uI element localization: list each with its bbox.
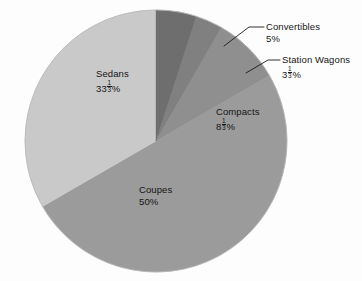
pie-label-station-wagons: Station Wagons 313% (282, 54, 350, 80)
pie-label-sedans-name: Sedans (96, 68, 129, 80)
pie-label-convertibles: Convertibles 5% (266, 21, 320, 44)
pie-slices (25, 10, 287, 272)
pie-label-compacts-value: 813% (216, 118, 260, 132)
pie-label-sedans: Sedans 3313% (96, 68, 129, 94)
pie-label-station-wagons-value: 313% (282, 66, 350, 80)
pie-label-compacts-name: Compacts (216, 106, 260, 118)
pie-label-sedans-value: 3313% (96, 80, 129, 94)
pie-label-convertibles-name: Convertibles (266, 21, 320, 33)
pie-label-compacts: Compacts 813% (216, 106, 260, 132)
pie-label-coupes-name: Coupes (139, 184, 172, 196)
pie-chart-figure: Convertibles 5% Station Wagons 313% Comp… (0, 0, 362, 281)
pie-label-station-wagons-name: Station Wagons (282, 54, 350, 66)
pie-label-coupes: Coupes 50% (139, 184, 172, 207)
pie-label-convertibles-value: 5% (266, 33, 320, 45)
pie-label-coupes-value: 50% (139, 196, 172, 208)
